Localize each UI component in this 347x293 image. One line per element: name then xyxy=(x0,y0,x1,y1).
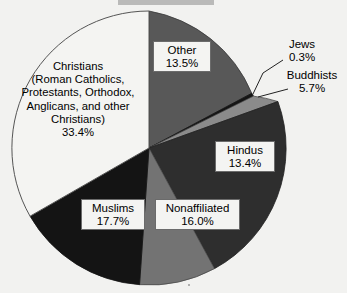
scan-speck xyxy=(188,284,190,286)
hindus-label-value: 13.4% xyxy=(220,157,270,170)
jews-label-text: Jews xyxy=(278,38,326,51)
christians-label-line-5: Christians) xyxy=(8,113,148,126)
hindus-label-text: Hindus xyxy=(220,144,270,157)
christians-label-line-4: Anglicans, and other xyxy=(8,100,148,113)
nonaffiliated-label-value: 16.0% xyxy=(160,215,235,228)
christians-label-line-2: (Roman Catholics, xyxy=(8,73,148,86)
buddhists-label-text: Buddhists xyxy=(279,69,345,82)
other-label-text: Other xyxy=(158,44,206,57)
slice-label-muslims[interactable]: Muslims 17.7% xyxy=(81,199,145,230)
nonaffiliated-label-text: Nonaffiliated xyxy=(160,202,235,215)
pie-chart-figure: Christians (Roman Catholics, Protestants… xyxy=(0,0,347,293)
christians-label-value: 33.4% xyxy=(8,126,148,139)
jews-label-value: 0.3% xyxy=(278,51,326,64)
buddhists-label-value: 5.7% xyxy=(279,82,345,95)
slice-label-buddhists[interactable]: Buddhists 5.7% xyxy=(279,69,345,95)
other-label-value: 13.5% xyxy=(158,57,206,70)
slice-label-hindus[interactable]: Hindus 13.4% xyxy=(215,141,275,172)
christians-label-line-1: Christians xyxy=(8,60,148,73)
muslims-label-text: Muslims xyxy=(86,202,140,215)
muslims-label-value: 17.7% xyxy=(86,215,140,228)
slice-label-jews[interactable]: Jews 0.3% xyxy=(278,38,326,64)
christians-label-line-3: Protestants, Orthodox, xyxy=(8,86,148,99)
slice-label-christians: Christians (Roman Catholics, Protestants… xyxy=(8,60,148,139)
slice-label-nonaffiliated[interactable]: Nonaffiliated 16.0% xyxy=(155,199,240,230)
slice-label-other[interactable]: Other 13.5% xyxy=(153,41,211,72)
